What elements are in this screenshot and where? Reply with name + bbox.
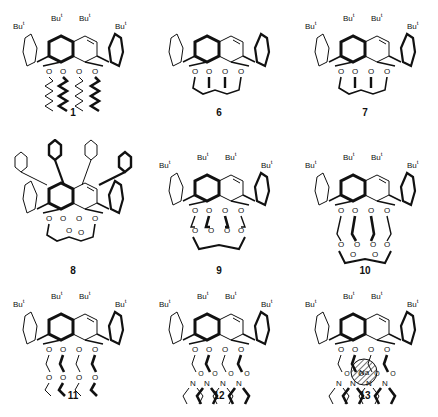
svg-text:O: O	[192, 67, 198, 76]
structure-drawing: OOOO	[146, 0, 292, 139]
svg-text:O: O	[206, 345, 212, 354]
svg-text:O: O	[338, 206, 344, 215]
tert-butyl-label: But	[305, 298, 316, 309]
svg-text:O: O	[384, 206, 390, 215]
tert-butyl-label: But	[343, 12, 354, 23]
tert-butyl-label: But	[159, 298, 170, 309]
svg-text:O: O	[192, 206, 198, 215]
compound-number: 13	[292, 390, 438, 401]
svg-text:O: O	[338, 240, 344, 249]
structure-drawing: OOOOOO	[0, 139, 146, 278]
compound-9: OOOOOOOOButButButBut9	[146, 139, 292, 278]
svg-text:O: O	[92, 345, 98, 354]
svg-text:O: O	[390, 370, 396, 377]
svg-text:O: O	[338, 345, 344, 354]
compound-number: 8	[0, 265, 146, 276]
compound-12: OOOOONONONONButButButBut12	[146, 278, 292, 417]
svg-text:O: O	[222, 345, 228, 354]
svg-text:O: O	[92, 67, 98, 76]
svg-text:N: N	[382, 379, 388, 388]
tert-butyl-label: But	[13, 20, 24, 31]
svg-text:O: O	[244, 370, 250, 377]
svg-text:O: O	[66, 226, 72, 235]
tert-butyl-label: But	[371, 12, 382, 23]
compound-number: 10	[292, 265, 438, 276]
tert-butyl-label: But	[79, 12, 90, 23]
svg-text:O: O	[46, 345, 52, 354]
svg-text:O: O	[222, 206, 228, 215]
compound-8: OOOOOO8	[0, 139, 146, 278]
svg-text:O: O	[192, 345, 198, 354]
compound-number: 6	[146, 107, 292, 118]
compound-number: 7	[292, 107, 438, 118]
tert-butyl-label: But	[115, 20, 126, 31]
compound-number: 11	[0, 390, 146, 401]
svg-text:O: O	[384, 67, 390, 76]
svg-text:O: O	[212, 370, 218, 377]
svg-text:N: N	[220, 379, 226, 388]
svg-text:O: O	[370, 240, 376, 249]
svg-text:Na: Na	[359, 368, 370, 377]
svg-text:O: O	[76, 67, 82, 76]
svg-text:O: O	[344, 370, 350, 377]
compound-number: 12	[146, 390, 292, 401]
compound-number: 9	[146, 265, 292, 276]
svg-text:O: O	[368, 345, 374, 354]
tert-butyl-label: But	[197, 151, 208, 162]
svg-text:O: O	[228, 370, 234, 377]
tert-butyl-label: But	[305, 20, 316, 31]
svg-text:O: O	[368, 206, 374, 215]
compound-number: 1	[0, 107, 146, 118]
tert-butyl-label: But	[407, 159, 418, 170]
svg-text:N: N	[204, 379, 210, 388]
svg-text:O: O	[206, 67, 212, 76]
svg-text:O: O	[238, 206, 244, 215]
svg-text:O: O	[92, 373, 98, 382]
tert-butyl-label: But	[371, 151, 382, 162]
tert-butyl-label: But	[407, 298, 418, 309]
tert-butyl-label: But	[197, 290, 208, 301]
compound-10: OOOOOOOOOOButButButBut10	[292, 139, 438, 278]
tert-butyl-label: But	[79, 290, 90, 301]
compound-7: OOOOButButButBut7	[292, 0, 438, 139]
tert-butyl-label: But	[261, 298, 272, 309]
svg-text:N: N	[190, 379, 196, 388]
svg-text:O: O	[76, 345, 82, 354]
tert-butyl-label: But	[225, 290, 236, 301]
tert-butyl-label: But	[407, 20, 418, 31]
tert-butyl-label: But	[13, 298, 24, 309]
tert-butyl-label: But	[51, 12, 62, 23]
svg-text:O: O	[352, 206, 358, 215]
svg-text:O: O	[92, 214, 98, 223]
tert-butyl-label: But	[225, 151, 236, 162]
compound-1: OOOOButButButBut1	[0, 0, 146, 139]
tert-butyl-label: But	[305, 159, 316, 170]
tert-butyl-label: But	[371, 290, 382, 301]
svg-text:O: O	[60, 345, 66, 354]
tert-butyl-label: But	[343, 151, 354, 162]
tert-butyl-label: But	[343, 290, 354, 301]
compound-6: OOOO6	[146, 0, 292, 139]
tert-butyl-label: But	[159, 159, 170, 170]
svg-text:O: O	[384, 345, 390, 354]
compound-11: OOOOOOOOButButButBut11	[0, 278, 146, 417]
svg-text:O: O	[60, 214, 66, 223]
svg-text:O: O	[238, 345, 244, 354]
compound-13: OOOOONONONONNaButButButBut13	[292, 278, 438, 417]
svg-text:O: O	[372, 250, 378, 259]
svg-text:O: O	[368, 67, 374, 76]
svg-text:O: O	[46, 373, 52, 382]
svg-text:O: O	[60, 373, 66, 382]
svg-text:O: O	[352, 345, 358, 354]
svg-text:N: N	[336, 379, 342, 388]
svg-text:O: O	[206, 206, 212, 215]
svg-text:O: O	[352, 67, 358, 76]
tert-butyl-label: But	[115, 298, 126, 309]
svg-text:O: O	[222, 67, 228, 76]
svg-text:O: O	[338, 67, 344, 76]
svg-text:N: N	[236, 379, 242, 388]
svg-text:O: O	[350, 250, 356, 259]
svg-text:O: O	[46, 67, 52, 76]
tert-butyl-label: But	[51, 290, 62, 301]
tert-butyl-label: But	[261, 159, 272, 170]
